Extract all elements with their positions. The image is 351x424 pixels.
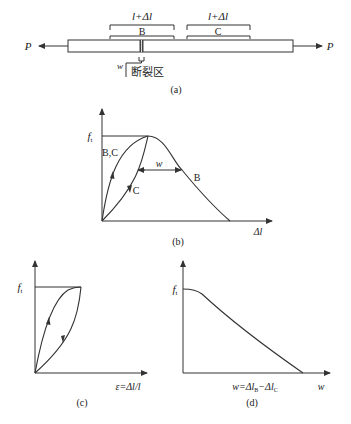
gauge-c-label: C bbox=[215, 26, 222, 37]
gauge-c-length-label: l+Δl bbox=[208, 10, 228, 22]
panel-a: l+Δl B l+Δl C P P w 断裂区 (a) bbox=[24, 10, 334, 96]
force-left-label: P bbox=[24, 40, 32, 52]
specimen-rod bbox=[68, 40, 293, 52]
x-label-c: ε=Δl/l bbox=[116, 381, 141, 392]
force-right-label: P bbox=[326, 40, 334, 52]
fracture-zone-label: 断裂区 bbox=[131, 65, 164, 79]
curve-label-bc: B,C bbox=[102, 147, 118, 158]
y-label-d: ft bbox=[172, 283, 177, 297]
panel-c: ft ε=Δl/l (c) bbox=[17, 261, 147, 409]
caption-a: (a) bbox=[170, 84, 181, 96]
figure-canvas: l+Δl B l+Δl C P P w 断裂区 (a) ft bbox=[0, 0, 351, 424]
panel-b: ft w B,C C B Δl (b) bbox=[87, 109, 272, 248]
x-label-d: w bbox=[318, 381, 325, 392]
caption-b: (b) bbox=[172, 236, 184, 248]
crack-width-label: w bbox=[117, 61, 123, 71]
loading-curve-c bbox=[35, 287, 81, 373]
softening-curve-d bbox=[183, 289, 303, 373]
unloading-direction-arrow-c bbox=[61, 335, 65, 343]
crack-width-bracket bbox=[139, 57, 144, 61]
panel-d: ft w=ΔlB−ΔlC w (d) bbox=[172, 261, 330, 409]
caption-c: (c) bbox=[76, 397, 87, 409]
curve-label-b: B bbox=[194, 172, 201, 183]
gauge-b-label: B bbox=[139, 26, 146, 37]
gap-w-label: w bbox=[156, 158, 163, 169]
x-label-b: Δl bbox=[253, 226, 263, 237]
gauge-b-length-label: l+Δl bbox=[132, 10, 152, 22]
formula-label-d: w=ΔlB−ΔlC bbox=[232, 381, 278, 393]
curve-label-c: C bbox=[133, 185, 140, 196]
softening-curve-b bbox=[148, 136, 230, 221]
y-label-c: ft bbox=[17, 281, 22, 295]
y-label-b: ft bbox=[87, 130, 92, 144]
caption-d: (d) bbox=[246, 397, 258, 409]
